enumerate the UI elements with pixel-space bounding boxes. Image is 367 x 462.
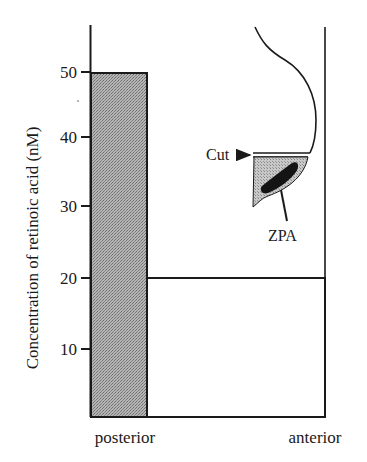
- cut-label: Cut: [206, 146, 230, 163]
- x-category-anterior: anterior: [289, 428, 342, 447]
- y-tick-labels: 10 20 30 40 50: [60, 63, 77, 359]
- y-axis-title: Concentration of retinoic acid (nM): [23, 127, 42, 370]
- bar-posterior: [91, 73, 147, 417]
- zpa-label: ZPA: [268, 227, 297, 244]
- y-tick-label-40: 40: [60, 128, 77, 147]
- y-tick-label-50: 50: [60, 63, 77, 82]
- y-tick-label-10: 10: [60, 340, 77, 359]
- y-tick-label-20: 20: [60, 269, 77, 288]
- bar-anterior: [147, 278, 325, 417]
- x-category-posterior: posterior: [95, 428, 156, 447]
- limb-bud-outline: [255, 27, 316, 153]
- zpa-leader-line: [281, 190, 287, 221]
- retinoic-acid-chart: 10 20 30 40 50 Concentration of retinoic…: [0, 0, 367, 462]
- y-tick-label-30: 30: [60, 197, 77, 216]
- scan-speck: [77, 100, 79, 102]
